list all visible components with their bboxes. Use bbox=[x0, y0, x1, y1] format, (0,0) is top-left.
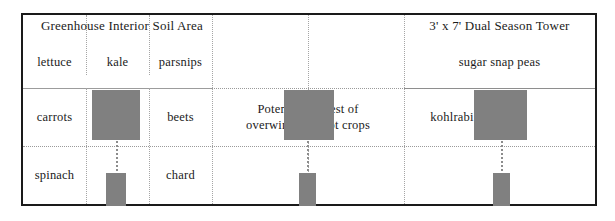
cell-sugar-snap-peas: sugar snap peas bbox=[404, 40, 595, 84]
cell-lettuce: lettuce bbox=[23, 40, 86, 84]
row-divider-bottom bbox=[23, 146, 595, 147]
small-bar-right bbox=[493, 173, 510, 206]
large-bar-right bbox=[474, 90, 527, 140]
cell-top-empty bbox=[212, 40, 404, 84]
cell-chard: chard bbox=[149, 146, 212, 204]
section-title-tower: 3' x 7' Dual Season Tower bbox=[404, 15, 595, 37]
diagram-canvas: Greenhouse Interior Soil Area 3' x 7' Du… bbox=[0, 0, 615, 221]
small-bar-left bbox=[106, 173, 126, 206]
large-bar-center bbox=[284, 90, 334, 140]
cell-kale: kale bbox=[86, 40, 149, 84]
cell-carrots: carrots bbox=[23, 88, 86, 146]
section-title-greenhouse: Greenhouse Interior Soil Area bbox=[31, 15, 213, 37]
small-bar-center bbox=[299, 173, 316, 206]
cell-parsnips: parsnips bbox=[149, 40, 212, 84]
large-bar-left bbox=[92, 90, 140, 140]
diagram-frame: Greenhouse Interior Soil Area 3' x 7' Du… bbox=[21, 13, 597, 206]
cell-spinach: spinach bbox=[23, 146, 86, 204]
cell-beets: beets bbox=[149, 88, 212, 146]
col-divider-left-mid bbox=[86, 88, 87, 204]
